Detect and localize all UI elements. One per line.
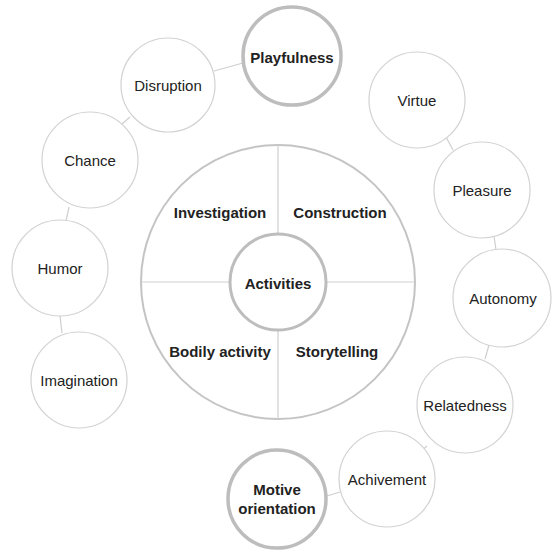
node-motive-orientation: Motive orientation — [234, 474, 320, 524]
node-humor: Humor — [12, 248, 108, 288]
node-activities: Activities — [232, 263, 324, 303]
quadrant-investigation: Investigation — [160, 192, 280, 232]
node-relatedness: Relatedness — [417, 385, 513, 425]
node-virtue: Virtue — [369, 80, 465, 120]
node-chance: Chance — [42, 140, 138, 180]
node-imagination: Imagination — [31, 360, 127, 400]
node-pleasure: Pleasure — [434, 170, 530, 210]
node-achivement: Achivement — [339, 459, 435, 499]
node-autonomy: Autonomy — [454, 278, 552, 318]
node-disruption: Disruption — [121, 65, 215, 105]
node-playfulness: Playfulness — [242, 37, 342, 77]
quadrant-construction: Construction — [280, 192, 400, 232]
quadrant-storytelling: Storytelling — [280, 331, 394, 371]
quadrant-bodily-activity: Bodily activity — [158, 331, 282, 371]
